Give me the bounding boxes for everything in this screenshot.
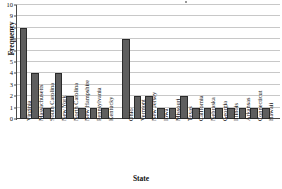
y-axis-ticks: 012345678910: [0, 5, 17, 119]
x-tick-label: New Jersey: [151, 92, 157, 121]
y-tick-label: 3: [10, 82, 13, 89]
y-tick-label: 10: [7, 2, 14, 9]
x-tick-label: New Hampshire: [84, 80, 90, 121]
x-axis-label: State: [0, 174, 282, 183]
y-tick-label: 5: [10, 59, 13, 66]
y-tick-label: 7: [10, 36, 13, 43]
x-tick-label: Kentucky: [108, 97, 114, 121]
bar: [122, 39, 130, 119]
x-tick-label: Georgia: [222, 101, 228, 121]
x-tick-label: Nebraska: [210, 97, 216, 121]
x-tick-label: Vermont: [140, 99, 146, 121]
x-tick-label: Texas: [187, 106, 193, 121]
x-tick-label: Illinois: [233, 103, 239, 121]
x-tick-label: Hawaii: [268, 103, 274, 121]
x-tick-label: Connecticut: [257, 91, 263, 121]
bar-chart: Frequency 012345678910 VirginiaMassachus…: [0, 0, 282, 189]
x-tick-label: Virginia: [26, 101, 32, 122]
y-tick-label: 0: [10, 116, 13, 123]
x-tick-label: South Carolina: [49, 83, 55, 121]
x-tick-label: Missouri: [175, 99, 181, 121]
scan-artifact: [185, 1, 187, 3]
y-tick-label: 8: [10, 25, 13, 32]
x-tick-label: California: [198, 95, 204, 121]
x-tick-label: Arkansas: [245, 98, 251, 121]
x-tick-label: North Carolina: [73, 83, 79, 121]
x-tick-label: Ohio: [128, 108, 134, 121]
x-tick-label: Pennsylvania: [96, 87, 102, 121]
y-tick-label: 1: [10, 104, 13, 111]
x-tick-label: Iowa: [163, 108, 169, 121]
y-tick-label: 6: [10, 47, 13, 54]
x-tick-label: Massachusetts: [38, 85, 44, 121]
y-tick-label: 9: [10, 13, 13, 20]
x-axis-tick-labels: VirginiaMassachusettsSouth CarolinaNew Y…: [17, 121, 280, 173]
bar-series: [17, 5, 280, 119]
y-tick-label: 2: [10, 93, 13, 100]
plot-area: [17, 5, 280, 119]
x-tick-label: New York: [61, 95, 67, 121]
y-tick-label: 4: [10, 70, 13, 77]
